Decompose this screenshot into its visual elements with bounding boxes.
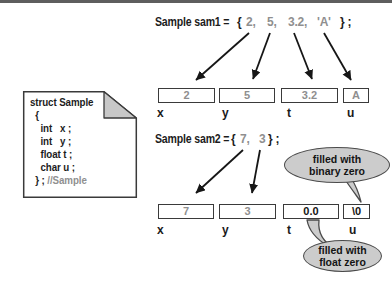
memory-cell-sam2-y: 3 — [219, 204, 276, 219]
field-label-sam2-y: y — [222, 224, 229, 236]
struct-code-body: struct Sample { int x ; int y ; float t … — [30, 96, 93, 186]
sam1-initializer-value-y: 5, — [267, 15, 277, 29]
sam2-initializer-value-x: 7, — [240, 132, 250, 146]
field-label-sam2-t: t — [287, 224, 291, 236]
sam2-close-brace: } ; — [268, 132, 279, 146]
arrow-sam1-t — [294, 33, 312, 79]
arrow-sam1-u — [324, 33, 351, 80]
callout-binary-zero: filled with binary zero — [284, 147, 390, 183]
memory-cell-sam1-x: 2 — [158, 88, 215, 103]
memory-cell-sam2-u: \0 — [343, 204, 370, 219]
sam1-initializer-value-u: 'A' — [317, 15, 331, 29]
arrow-sam1-y — [253, 33, 270, 79]
field-label-sam2-u: u — [349, 224, 356, 236]
sam1-declaration-prefix: Sample sam1 = — [155, 15, 229, 29]
memory-cell-sam1-u: A — [343, 88, 369, 103]
sam2-open-brace: { — [231, 132, 235, 146]
struct-code-comment: //Sample — [47, 174, 86, 186]
sam2-declaration-prefix: Sample sam2 = — [155, 132, 229, 146]
sam1-initializer-value-x: 2, — [246, 15, 256, 29]
sam1-close-brace: } ; — [340, 15, 351, 29]
diagram-canvas: Sample sam1 = { 2, 5, 3.2, 'A' } ; Sampl… — [0, 0, 392, 287]
sam1-open-brace: { — [237, 15, 241, 29]
callout-binary-zero-line1: filled with — [313, 153, 361, 165]
field-label-sam1-x: x — [157, 107, 164, 119]
memory-cell-sam2-x: 7 — [158, 204, 214, 219]
arrow-sam1-x — [196, 33, 249, 80]
memory-cell-sam2-t: 0.0 — [283, 204, 339, 219]
page-fold-icon — [104, 92, 136, 118]
sam1-initializer-value-t: 3.2, — [288, 15, 307, 29]
struct-definition-code: struct Sample { int x ; int y ; float t … — [30, 96, 93, 187]
callout-binary-zero-line2: binary zero — [309, 165, 365, 177]
arrow-sam2-x — [196, 150, 243, 193]
field-label-sam1-t: t — [287, 107, 291, 119]
arrow-sam2-y — [252, 150, 260, 193]
field-label-sam2-x: x — [157, 224, 164, 236]
memory-cell-sam1-y: 5 — [219, 88, 275, 103]
callout-float-zero: filled with float zero — [303, 240, 382, 272]
field-label-sam1-y: y — [222, 107, 229, 119]
callout-float-zero-line2: float zero — [319, 256, 366, 268]
callout-float-zero-line1: filled with — [318, 244, 366, 256]
field-label-sam1-u: u — [347, 107, 354, 119]
memory-cell-sam1-t: 3.2 — [281, 88, 338, 103]
sam2-initializer-value-y: 3 — [259, 132, 265, 146]
